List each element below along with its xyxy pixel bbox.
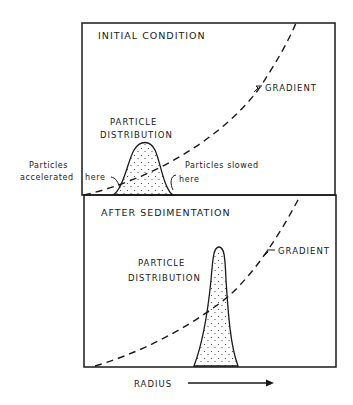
accelerated-leader-icon — [111, 177, 120, 188]
panel-after-sedimentation: AFTER SEDIMENTATION GRADIENT PARTICLE DI… — [84, 195, 336, 367]
x-axis: RADIUS — [134, 379, 274, 389]
gradient-label: GRADIENT — [265, 83, 317, 93]
accelerated-annotation-line2: accelerated — [20, 173, 74, 182]
panel-title: AFTER SEDIMENTATION — [101, 207, 231, 218]
distribution-label-line2: DISTRIBUTION — [128, 273, 201, 283]
distribution-label-line1: PARTICLE — [110, 117, 157, 127]
slowed-leader-icon — [171, 175, 176, 190]
panel-title: INITIAL CONDITION — [98, 30, 206, 41]
arrow-right-icon — [266, 380, 274, 387]
accelerated-annotation-here: here — [85, 173, 105, 182]
accelerated-annotation-line1: Particles — [29, 161, 68, 170]
sedimentation-diagram: INITIAL CONDITION GRADIENT PARTICLE DIST… — [0, 0, 353, 405]
particle-distribution-curve — [113, 143, 173, 196]
panel-initial-condition: INITIAL CONDITION GRADIENT PARTICLE DIST… — [20, 23, 335, 195]
distribution-label-line2: DISTRIBUTION — [100, 130, 173, 140]
x-axis-label: RADIUS — [134, 379, 172, 389]
slowed-annotation-line1: Particles slowed — [185, 161, 259, 170]
gradient-label: GRADIENT — [278, 246, 330, 256]
distribution-label-line1: PARTICLE — [138, 258, 185, 268]
slowed-annotation-here: here — [179, 175, 199, 184]
